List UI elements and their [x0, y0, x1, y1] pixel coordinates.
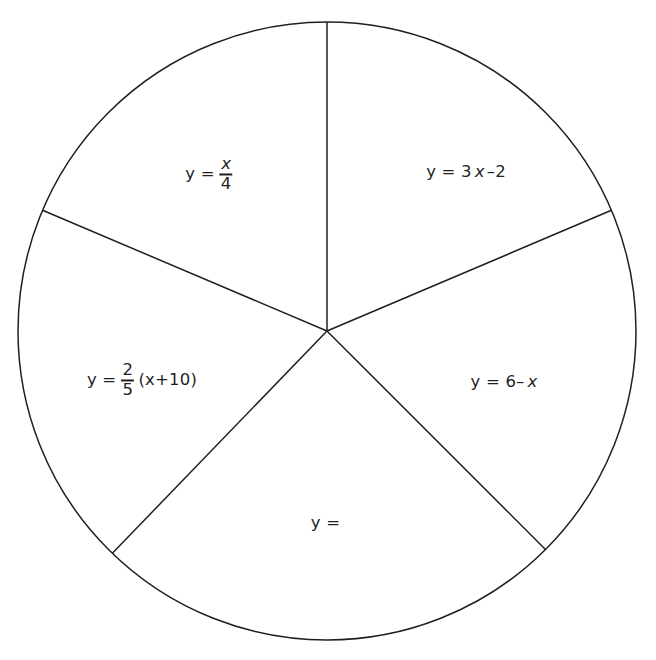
sector-left-fraction: 25	[121, 362, 134, 399]
sector-left-denominator: 5	[122, 381, 135, 399]
sector-label-top-right: y = 3x–2	[426, 164, 506, 181]
sector-left-lhs: y =	[87, 373, 116, 390]
sector-label-top-left: y =x4	[185, 156, 234, 193]
sector-label-bottom: y =	[311, 515, 343, 532]
wheel-spoke-1	[327, 210, 611, 331]
wheel-spoke-4	[43, 210, 327, 331]
sector-left-numerator: 2	[122, 362, 135, 380]
sector-top-left-numerator: x	[220, 156, 232, 174]
sector-top-right-tail: –2	[487, 164, 506, 181]
sector-top-left-lhs: y =	[185, 167, 214, 184]
wheel-spokes-group	[43, 22, 612, 553]
sector-top-right-lhs: y = 3	[426, 164, 472, 181]
sector-right-variable: x	[528, 374, 538, 391]
sector-label-left: y =25(x+10)	[87, 362, 197, 399]
sector-left-tail: (x+10)	[138, 373, 197, 390]
sector-top-right-variable: x	[475, 164, 485, 181]
sector-bottom-lhs: y =	[311, 515, 340, 532]
sector-right-lhs: y = 6–	[471, 374, 525, 391]
sector-top-left-fraction: x4	[220, 156, 233, 193]
wheel-spoke-2	[327, 331, 545, 549]
sector-label-right: y = 6–x	[471, 374, 538, 391]
sector-top-left-denominator: 4	[220, 175, 233, 193]
wheel-diagram-canvas	[0, 0, 656, 660]
